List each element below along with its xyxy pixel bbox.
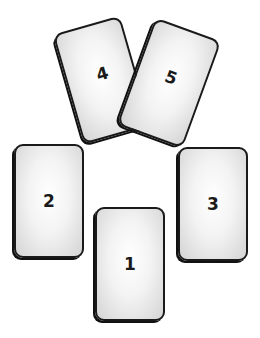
card-number: 4 [94,62,111,84]
card-number: 3 [207,194,219,214]
card-5: 5 [117,17,222,148]
card-2: 2 [14,144,84,258]
card-3: 3 [178,147,248,261]
card-number: 1 [124,254,136,274]
card-1: 1 [95,207,165,321]
card-number: 5 [162,66,180,89]
card-number: 2 [43,191,55,211]
